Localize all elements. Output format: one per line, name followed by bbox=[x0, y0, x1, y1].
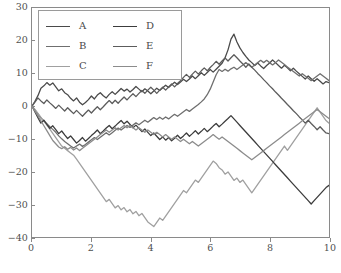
legend-label: A bbox=[79, 21, 86, 31]
legend-column-left: ABC bbox=[46, 16, 87, 76]
y-tick-mark bbox=[31, 139, 35, 140]
y-tick-mark bbox=[31, 7, 35, 8]
x-tick-label: 0 bbox=[19, 243, 43, 253]
legend-label: E bbox=[146, 41, 153, 51]
legend-entry[interactable]: A bbox=[46, 16, 87, 36]
legend-label: B bbox=[79, 41, 86, 51]
legend-entry[interactable]: D bbox=[113, 16, 154, 36]
legend-label: D bbox=[146, 21, 154, 31]
legend-entry[interactable]: B bbox=[46, 36, 87, 56]
figure-caption bbox=[0, 262, 341, 273]
legend-line-swatch bbox=[113, 26, 137, 27]
x-tick-mark bbox=[91, 238, 92, 242]
figure: 3020100−10−20−30−40 ABC DEF 0246810 bbox=[0, 0, 341, 273]
legend: ABC DEF bbox=[38, 10, 182, 80]
x-tick-mark bbox=[270, 238, 271, 242]
y-tick-mark bbox=[31, 205, 35, 206]
y-tick-mark bbox=[31, 106, 35, 107]
y-tick-mark bbox=[31, 40, 35, 41]
x-axis-tick-labels: 0246810 bbox=[31, 243, 330, 257]
legend-label: F bbox=[146, 61, 153, 71]
legend-entry[interactable]: F bbox=[113, 56, 154, 76]
x-tick-mark bbox=[210, 238, 211, 242]
y-tick-label: −10 bbox=[2, 134, 28, 144]
legend-column-right: DEF bbox=[113, 16, 154, 76]
x-tick-mark bbox=[330, 238, 331, 242]
legend-line-swatch bbox=[113, 46, 137, 47]
y-tick-label: 10 bbox=[2, 68, 28, 78]
x-tick-mark bbox=[151, 238, 152, 242]
x-tick-label: 10 bbox=[318, 243, 341, 253]
y-tick-label: −20 bbox=[2, 167, 28, 177]
x-tick-mark bbox=[31, 238, 32, 242]
legend-line-swatch bbox=[46, 66, 70, 67]
y-axis-tick-labels: 3020100−10−20−30−40 bbox=[0, 0, 28, 273]
series-line bbox=[32, 106, 329, 204]
series-line bbox=[32, 106, 329, 226]
legend-line-swatch bbox=[113, 66, 137, 67]
legend-entry[interactable]: E bbox=[113, 36, 154, 56]
legend-line-swatch bbox=[46, 26, 70, 27]
y-tick-mark bbox=[31, 73, 35, 74]
y-tick-mark bbox=[31, 172, 35, 173]
x-tick-label: 8 bbox=[258, 243, 282, 253]
x-tick-label: 4 bbox=[139, 243, 163, 253]
legend-line-swatch bbox=[46, 46, 70, 47]
x-tick-label: 6 bbox=[198, 243, 222, 253]
y-tick-label: −30 bbox=[2, 200, 28, 210]
legend-label: C bbox=[79, 61, 87, 71]
x-tick-label: 2 bbox=[79, 243, 103, 253]
y-tick-label: 20 bbox=[2, 35, 28, 45]
y-tick-label: 0 bbox=[2, 101, 28, 111]
legend-entry[interactable]: C bbox=[46, 56, 87, 76]
y-tick-label: −40 bbox=[2, 233, 28, 243]
y-tick-label: 30 bbox=[2, 2, 28, 12]
